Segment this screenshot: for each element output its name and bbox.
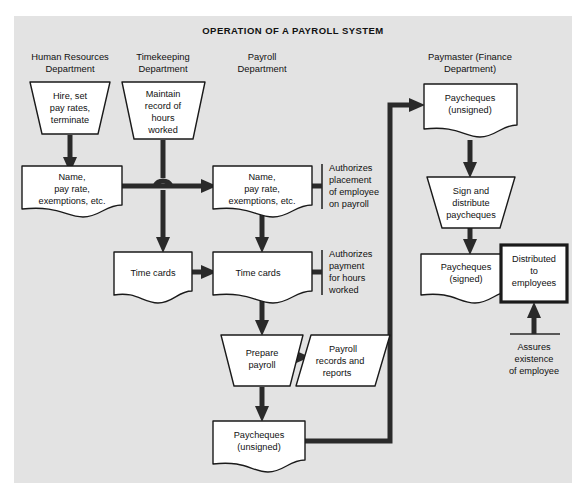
node-label-line: Sign and <box>453 186 489 196</box>
node-label-line: Prepare <box>246 348 279 358</box>
payroll-flowchart: OPERATION OF A PAYROLL SYSTEM Human Reso… <box>0 0 586 498</box>
node-label-line: exemptions, etc. <box>229 196 296 206</box>
node-label-line: (signed) <box>449 274 482 284</box>
node-payroll-records-and-reports[interactable]: Payroll records and reports <box>296 335 390 386</box>
node-label-line: payroll <box>248 360 275 370</box>
node-sign-and-distribute[interactable]: Sign and distribute paycheques <box>427 177 515 228</box>
node-label-line: Paycheques <box>445 93 496 103</box>
node-label-line: (unsigned) <box>448 105 491 115</box>
column-header-human-resources: Human Resources Department <box>31 51 109 74</box>
node-label-line: Paycheques <box>234 430 285 440</box>
column-header-line2: Department) <box>444 63 496 74</box>
node-paycheques-signed[interactable]: Paycheques (signed) <box>421 254 512 303</box>
node-time-cards-payroll[interactable]: Time cards <box>213 252 312 303</box>
column-header-paymaster: Paymaster (Finance Department) <box>428 51 512 74</box>
node-label-line: (unsigned) <box>237 442 280 452</box>
node-label-line: employees <box>512 278 557 288</box>
column-header-line2: Department <box>139 63 188 74</box>
node-label-line: Name, <box>58 172 85 182</box>
annotation-authorizes-placement: Authorizes placement of employee on payr… <box>329 163 379 209</box>
connector-prepare-to-cheques-unsigned <box>255 387 269 422</box>
node-hire-set-pay-rates[interactable]: Hire, set pay rates, terminate <box>30 82 110 134</box>
node-label-line: distribute <box>452 198 489 208</box>
annotation-line: Authorizes <box>329 163 373 173</box>
annotation-line: placement <box>329 175 372 185</box>
annotation-line: of employee <box>509 366 559 376</box>
annotation-line: existence <box>515 354 554 364</box>
annotation-line: payment <box>329 261 365 271</box>
column-header-timekeeping: Timekeeping Department <box>136 51 189 74</box>
node-label-line: worked <box>147 125 178 135</box>
node-maintain-record-of-hours[interactable]: Maintain record of hours worked <box>122 82 205 139</box>
node-prepare-payroll[interactable]: Prepare payroll <box>221 335 303 386</box>
node-label-line: Time cards <box>235 268 280 278</box>
node-name-pay-rate-hr[interactable]: Name, pay rate, exemptions, etc. <box>22 166 122 217</box>
node-label-line: paycheques <box>446 210 496 220</box>
node-paycheques-unsigned-paymaster[interactable]: Paycheques (unsigned) <box>424 84 517 137</box>
connector-sign-to-cheques-signed <box>463 228 477 255</box>
node-label-line: Hire, set <box>53 91 88 101</box>
node-label-line: pay rate, <box>244 184 280 194</box>
node-label-line: records and <box>316 356 365 366</box>
column-header-line1: Human Resources <box>31 51 109 62</box>
node-paycheques-unsigned-payroll[interactable]: Paycheques (unsigned) <box>213 421 305 472</box>
column-header-line1: Paymaster (Finance <box>428 51 512 62</box>
page-title: OPERATION OF A PAYROLL SYSTEM <box>202 25 383 36</box>
connector-cheques-unsigned-to-sign <box>463 140 477 178</box>
column-header-line2: Department <box>238 63 287 74</box>
diagram-canvas: OPERATION OF A PAYROLL SYSTEM Human Reso… <box>0 0 586 498</box>
node-label-line: hours <box>152 113 175 123</box>
annotation-line: Assures <box>517 342 551 352</box>
node-label-line: Payroll <box>329 344 357 354</box>
column-header-line1: Payroll <box>248 51 277 62</box>
node-label-line: exemptions, etc. <box>39 196 106 206</box>
node-label-line: terminate <box>51 115 89 125</box>
node-distributed-to-employees[interactable]: Distributed to employees <box>501 245 567 302</box>
connector-timecards-to-prepare <box>255 300 269 336</box>
node-label-line: reports <box>323 368 352 378</box>
annotation-line: worked <box>328 285 359 295</box>
node-label-line: Time cards <box>130 268 175 278</box>
node-name-pay-rate-payroll[interactable]: Name, pay rate, exemptions, etc. <box>213 166 312 217</box>
node-label-line: record of <box>145 101 182 111</box>
node-label-line: pay rates, <box>50 103 90 113</box>
node-label-line: Paycheques <box>441 262 492 272</box>
annotation-line: on payroll <box>329 199 369 209</box>
column-header-line1: Timekeeping <box>136 51 189 62</box>
connector-assures-existence <box>510 302 560 334</box>
column-header-line2: Department <box>46 63 95 74</box>
node-label-line: Distributed <box>512 254 556 264</box>
connector-cheques-unsigned-to-paymaster <box>305 98 425 441</box>
node-label-line: to <box>530 266 538 276</box>
node-time-cards-timekeeping[interactable]: Time cards <box>114 252 192 303</box>
annotation-authorizes-payment: Authorizes payment for hours worked <box>328 249 373 295</box>
node-label-line: Maintain <box>146 89 181 99</box>
annotation-line: Authorizes <box>329 249 373 259</box>
annotation-assures-existence: Assures existence of employee <box>509 342 559 376</box>
connector-name-payroll-to-timecards-payroll <box>255 214 269 253</box>
column-header-payroll: Payroll Department <box>238 51 287 74</box>
node-label-line: Name, <box>248 172 275 182</box>
node-label-line: pay rate, <box>54 184 90 194</box>
connector-maintain-to-timecards <box>155 140 171 253</box>
annotation-line: for hours <box>329 273 366 283</box>
annotation-line: of employee <box>329 187 379 197</box>
